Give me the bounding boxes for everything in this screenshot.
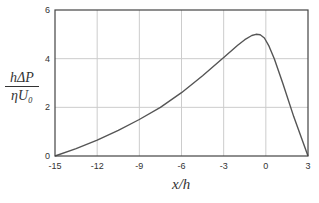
x-tick-label: -15 bbox=[48, 161, 61, 171]
y-tick-label: 4 bbox=[45, 54, 50, 64]
y-tick-label: 2 bbox=[45, 102, 50, 112]
y-axis-label-denominator: ηU₀ bbox=[5, 87, 39, 103]
x-tick-label: -6 bbox=[177, 161, 185, 171]
x-axis-ticks: -15-12-9-6-303 bbox=[48, 161, 310, 171]
x-axis-label: x/h bbox=[172, 176, 190, 193]
chart-plot-area: -15-12-9-6-303 0246 bbox=[0, 0, 319, 203]
y-tick-label: 0 bbox=[45, 151, 50, 161]
x-tick-label: 0 bbox=[263, 161, 268, 171]
y-axis-ticks: 0246 bbox=[45, 5, 50, 161]
x-tick-label: 3 bbox=[305, 161, 310, 171]
x-tick-label: -12 bbox=[91, 161, 104, 171]
y-axis-label-numerator: hΔP bbox=[5, 70, 39, 87]
y-axis-label: hΔP ηU₀ bbox=[5, 70, 39, 103]
x-tick-label: -3 bbox=[220, 161, 228, 171]
y-tick-label: 6 bbox=[45, 5, 50, 15]
x-tick-label: -9 bbox=[135, 161, 143, 171]
gridlines bbox=[55, 10, 308, 156]
